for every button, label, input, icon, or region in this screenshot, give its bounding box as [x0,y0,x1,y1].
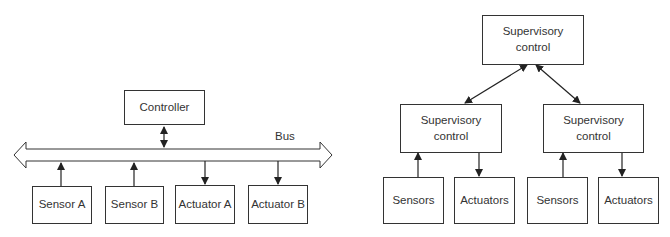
right-actuators-box: Actuators [598,177,659,224]
right-actuators-label: Actuators [604,193,653,209]
right-supervisory-box: Supervisory control [543,104,644,153]
controller-box: Controller [124,90,205,125]
left-supervisory-box: Supervisory control [400,104,502,153]
bus-label: Bus [275,130,295,142]
right-sensors-box: Sensors [527,177,588,224]
sensor-b-label: Sensor B [111,197,158,213]
sensor-a-box: Sensor A [32,186,92,224]
left-supervisory-label: Supervisory control [421,113,482,144]
sensor-a-label: Sensor A [39,197,86,213]
controller-label: Controller [140,100,190,116]
left-sensors-box: Sensors [383,177,444,224]
sup-left-link [465,65,527,103]
top-supervisory-box: Supervisory control [482,15,584,65]
left-sensors-label: Sensors [392,193,434,209]
top-supervisory-label: Supervisory control [503,24,564,55]
bus-arrow [14,142,332,168]
sensor-b-box: Sensor B [105,186,164,224]
left-actuators-box: Actuators [454,177,515,224]
actuator-a-label: Actuator A [178,197,231,213]
right-supervisory-label: Supervisory control [563,113,624,144]
right-sensors-label: Sensors [536,193,578,209]
left-actuators-label: Actuators [460,193,509,209]
sup-right-link [536,65,580,103]
actuator-a-box: Actuator A [175,185,235,224]
actuator-b-box: Actuator B [248,185,308,224]
actuator-b-label: Actuator B [251,197,305,213]
